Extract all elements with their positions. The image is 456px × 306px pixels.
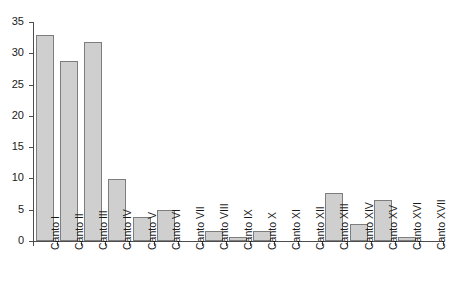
- category-label: Canto XIV: [364, 202, 375, 250]
- category-label: Canto IV: [122, 209, 133, 250]
- category-label: Canto XV: [388, 205, 399, 250]
- category-label: Canto VIII: [219, 203, 230, 250]
- bar: [36, 35, 54, 241]
- category-label: Canto V: [147, 212, 158, 250]
- plot-area: [0, 0, 456, 306]
- category-label: Canto I: [50, 216, 61, 250]
- category-label: Canto IX: [243, 209, 254, 250]
- category-label: Canto XII: [315, 206, 326, 250]
- category-label: Canto X: [267, 212, 278, 250]
- bar-chart: 05101520253035 Canto ICanto IICanto IIIC…: [0, 0, 456, 306]
- category-label: Canto VII: [195, 206, 206, 250]
- category-label: Canto XIII: [339, 203, 350, 250]
- category-label: Canto III: [98, 210, 109, 250]
- category-label: Canto II: [74, 213, 85, 250]
- category-label: Canto VI: [171, 209, 182, 250]
- category-label: Canto XVI: [412, 202, 423, 250]
- category-label: Canto XVII: [436, 199, 447, 250]
- category-label: Canto XI: [291, 209, 302, 250]
